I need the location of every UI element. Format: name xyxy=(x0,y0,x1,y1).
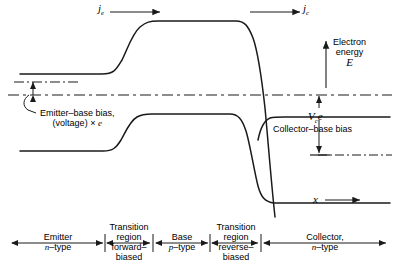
region-emitter-line1: Emitter xyxy=(32,232,84,242)
region-tr-line2: region xyxy=(212,232,260,242)
x-axis-label: x xyxy=(313,193,318,205)
emitter-base-bias-label: Emitter–base bias, (voltage) × e xyxy=(40,108,115,128)
region-collector-line1: Collector, xyxy=(295,232,355,242)
region-label-base: Base p–type xyxy=(158,232,206,252)
emitter-current-label: je xyxy=(98,2,104,17)
region-collector-line2: n–type xyxy=(295,242,355,252)
times-symbol: × xyxy=(90,118,95,128)
region-tr-line1: Transition xyxy=(212,222,260,232)
region-label-emitter: Emitter n–type xyxy=(32,232,84,252)
region-label-collector: Collector, n–type xyxy=(295,232,355,252)
region-base-line2: p–type xyxy=(158,242,206,252)
region-tr-line3: reverse– xyxy=(212,242,260,252)
region-tf-line2: region xyxy=(105,232,153,242)
electron-energy-line1: Electron xyxy=(333,37,366,47)
collector-current-label: jc xyxy=(303,2,309,17)
region-base-line1: Base xyxy=(158,232,206,242)
region-tf-line1: Transition xyxy=(105,222,153,232)
region-tf-line3: forward– xyxy=(105,242,153,252)
region-tf-line4: biased xyxy=(105,252,153,262)
collector-base-bias-label: Collector–base bias xyxy=(273,124,352,134)
emitter-bias-voltage-word: (voltage) xyxy=(53,118,88,128)
emitter-bias-line2: (voltage) × e xyxy=(40,118,115,128)
emitter-base-bias-indicator xyxy=(24,82,36,113)
electron-energy-axis-label: Electron energy E xyxy=(333,37,366,67)
collector-base-bias-symbol: Vce xyxy=(308,110,323,125)
region-tr-line4: biased xyxy=(212,252,260,262)
energy-symbol: E xyxy=(333,57,366,67)
electron-charge-symbol: e xyxy=(98,118,102,128)
region-emitter-line2: n–type xyxy=(32,242,84,252)
emitter-bias-line1: Emitter–base bias, xyxy=(40,108,115,118)
region-label-transition-reverse: Transition region reverse– biased xyxy=(212,222,260,262)
band-diagram-figure: je jc Electron energy E Emitter–base bia… xyxy=(0,0,397,272)
region-label-transition-forward: Transition region forward– biased xyxy=(105,222,153,262)
